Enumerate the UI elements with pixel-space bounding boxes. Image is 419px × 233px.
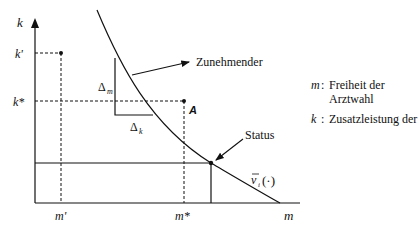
curve-label: v i (·) <box>251 173 275 189</box>
svg-text:v: v <box>251 173 257 187</box>
point-A <box>182 99 186 103</box>
y-axis <box>31 18 39 203</box>
increasing-label: Zunehmender <box>196 55 263 69</box>
legend-item-m: m: Freiheit der Arztwahl <box>311 78 419 106</box>
y-tick-k-star: k* <box>13 95 24 109</box>
y-tick-k-prime: k' <box>15 47 23 61</box>
x-tick-m-prime: m' <box>55 209 67 223</box>
svg-text:(·): (·) <box>262 173 275 188</box>
delta-k-subscript: k <box>139 127 143 136</box>
legend: m: Freiheit der Arztwahl k: Zusatzleistu… <box>311 78 419 132</box>
status-label: Status <box>245 128 275 142</box>
arrow-status <box>216 139 243 160</box>
svg-text:i: i <box>258 181 260 189</box>
legend-item-k: k: Zusatzleistung der <box>311 112 419 126</box>
x-axis-label: m <box>284 208 293 223</box>
y-axis-label: k <box>17 15 23 30</box>
dashed-k-star <box>35 101 184 203</box>
delta-m-symbol: Δ <box>98 80 106 94</box>
dashed-k-prime <box>35 53 61 203</box>
delta-k-symbol: Δ <box>130 120 138 134</box>
point-status <box>209 161 213 165</box>
point-k-prime <box>59 51 63 55</box>
delta-m-subscript: m <box>107 87 113 96</box>
point-A-label: A <box>188 104 197 116</box>
slope-triangle <box>115 58 153 115</box>
x-tick-m-star: m* <box>175 209 190 223</box>
arrow-increasing <box>132 62 189 75</box>
